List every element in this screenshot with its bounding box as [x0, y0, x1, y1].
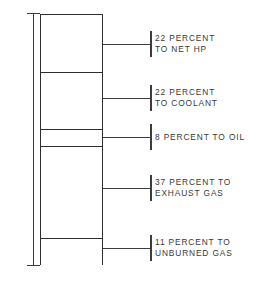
- total-energy-bracket-spine: [33, 13, 34, 266]
- leader-tick-unburned-gas: [150, 235, 152, 261]
- bar-segment-unburned-gas: [41, 239, 102, 266]
- bar-segment-exhaust-gas: [41, 147, 102, 239]
- callout-label-line: UNBURNED GAS: [155, 248, 233, 259]
- bar-segment-net-hp: [41, 15, 102, 73]
- total-energy-bracket-tick-bottom: [27, 265, 40, 266]
- bar-segment-coolant: [41, 73, 102, 130]
- leader-line-coolant: [103, 98, 152, 99]
- bar-segment-oil: [41, 130, 102, 147]
- leader-line-exhaust-gas: [103, 188, 152, 189]
- leader-line-net-hp: [103, 44, 152, 45]
- callout-label-line: TO COOLANT: [155, 98, 218, 109]
- callout-label-line: TO NET HP: [155, 44, 215, 55]
- callout-label-line: 11 PERCENT TO: [155, 237, 233, 248]
- leader-tick-oil: [150, 124, 152, 150]
- total-energy-axis-caption: TOTAL ENERGY IN FUEL: [19, 0, 33, 14]
- callout-label-line: 37 PERCENT TO: [155, 177, 231, 188]
- callout-label-line: 22 PERCENT: [155, 33, 215, 44]
- leader-tick-exhaust-gas: [150, 175, 152, 201]
- leader-line-unburned-gas: [103, 248, 152, 249]
- callout-label-line: 8 PERCENT TO OIL: [155, 132, 245, 143]
- energy-balance-diagram: TOTAL ENERGY IN FUEL 22 PERCENTTO NET HP…: [0, 0, 271, 282]
- callout-label-line: 22 PERCENT: [155, 87, 218, 98]
- callout-label-coolant: 22 PERCENTTO COOLANT: [155, 87, 218, 110]
- callout-label-net-hp: 22 PERCENTTO NET HP: [155, 33, 215, 56]
- leader-tick-net-hp: [150, 31, 152, 57]
- callout-label-exhaust-gas: 37 PERCENT TOEXHAUST GAS: [155, 177, 231, 200]
- callout-label-line: EXHAUST GAS: [155, 188, 231, 199]
- callout-label-unburned-gas: 11 PERCENT TOUNBURNED GAS: [155, 237, 233, 260]
- callout-label-oil: 8 PERCENT TO OIL: [155, 132, 245, 143]
- leader-tick-coolant: [150, 85, 152, 111]
- leader-line-oil: [103, 137, 152, 138]
- stacked-energy-bar: [40, 14, 103, 265]
